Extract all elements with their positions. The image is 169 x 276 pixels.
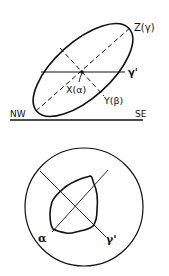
z-gamma-label: Z(γ) <box>134 22 155 33</box>
gamma-prime-label-bottom: γ' <box>106 233 117 246</box>
y-beta-label: Y(β) <box>103 95 123 106</box>
field-of-view-circle <box>25 148 143 266</box>
diagram-canvas: Z(γ) γ' X(α) Y(β) NW SE α γ' <box>0 0 169 276</box>
gamma-prime-direction-line <box>40 171 106 237</box>
gamma-prime-label-top: γ' <box>128 67 138 78</box>
x-alpha-label: X(α) <box>66 84 86 95</box>
se-label: SE <box>135 109 147 119</box>
nw-label: NW <box>10 109 26 119</box>
indicatrix-figure: Z(γ) γ' X(α) Y(β) NW SE <box>10 8 155 133</box>
x-label-leader <box>79 73 82 82</box>
alpha-label: α <box>38 232 47 245</box>
grain-figure: α γ' <box>25 148 143 266</box>
